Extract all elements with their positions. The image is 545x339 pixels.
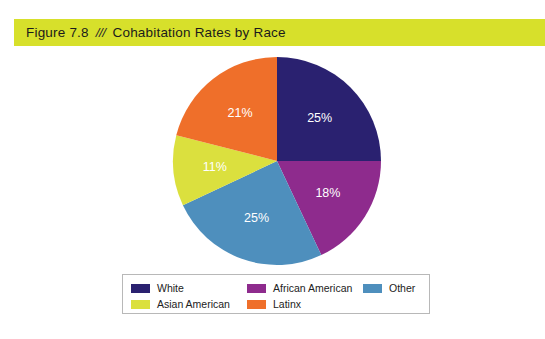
legend-item-label: Asian American: [157, 299, 230, 310]
pie-slice-label: 25%: [307, 111, 332, 125]
pie-chart-svg: 25%18%25%11%21%: [172, 56, 382, 266]
legend-swatch-icon: [247, 284, 266, 293]
legend-swatch-icon: [247, 300, 266, 309]
title-separator-icon: ///: [93, 25, 109, 40]
figure-title-band: Figure 7.8 /// Cohabitation Rates by Rac…: [14, 19, 545, 46]
legend-swatch-icon: [363, 284, 382, 293]
chart-legend: WhiteAfrican AmericanOtherAsian American…: [122, 274, 430, 314]
legend-grid: WhiteAfrican AmericanOtherAsian American…: [131, 280, 425, 312]
legend-item[interactable]: Other: [363, 283, 425, 294]
legend-item[interactable]: Latinx: [247, 299, 363, 310]
figure-number: Figure 7.8: [26, 25, 89, 40]
pie-slice-label: 11%: [203, 160, 227, 174]
figure-title-label: Cohabitation Rates by Race: [112, 25, 285, 40]
legend-item-label: African American: [273, 283, 352, 294]
page-title: Figure 7.8 /// Cohabitation Rates by Rac…: [14, 25, 286, 40]
pie-slice-label: 25%: [244, 211, 269, 225]
pie-slice[interactable]: [277, 57, 381, 161]
legend-item[interactable]: Asian American: [131, 299, 247, 310]
legend-item[interactable]: African American: [247, 283, 363, 294]
legend-swatch-icon: [131, 300, 150, 309]
figure-container: Figure 7.8 /// Cohabitation Rates by Rac…: [0, 0, 545, 339]
pie-slice-label: 18%: [315, 186, 340, 200]
legend-item-label: Latinx: [273, 299, 301, 310]
pie-slice-label: 21%: [227, 106, 252, 120]
legend-item[interactable]: White: [131, 283, 247, 294]
legend-item-label: Other: [389, 283, 415, 294]
pie-chart: 25%18%25%11%21%: [172, 56, 382, 266]
legend-swatch-icon: [131, 284, 150, 293]
legend-item-label: White: [157, 283, 184, 294]
